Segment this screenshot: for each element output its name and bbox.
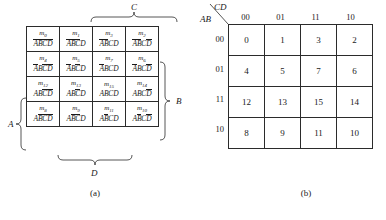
brace-label-d: D: [91, 168, 98, 178]
kmap-literal-row: m4ABCDm5ABCDm7ABCDm6ABCD: [27, 52, 159, 77]
kmap-numeric-cell[interactable]: 11: [301, 118, 337, 149]
kmap-numeric-row: 891110: [229, 118, 373, 149]
kmap-numeric-cell[interactable]: 3: [301, 25, 337, 56]
minterm-label: m2: [126, 30, 158, 38]
kmap-numeric-cell[interactable]: 8: [229, 118, 265, 149]
kmap-numeric-cell[interactable]: 6: [337, 56, 373, 87]
kmap-literal-cell[interactable]: m5ABCD: [60, 52, 93, 77]
kmap-numeric-cell[interactable]: 10: [337, 118, 373, 149]
kmap-literal-row: m12ABCDm13ABCDm15ABCDm14ABCD: [27, 77, 159, 102]
kmap-literal-row: m0ABCDm1ABCDm3ABCDm2ABCD: [27, 27, 159, 52]
kmap-numeric-cell[interactable]: 9: [265, 118, 301, 149]
brace-label-b: B: [176, 96, 182, 106]
kmap-numeric-cell[interactable]: 1: [265, 25, 301, 56]
kmap-literal-cell[interactable]: m2ABCD: [126, 27, 159, 52]
kmap-literal-cell[interactable]: m7ABCD: [93, 52, 126, 77]
kmap-numeric-row-header-0: 00: [204, 24, 224, 54]
brace-d-icon: [58, 155, 132, 165]
literal-expression: ABCD: [27, 39, 59, 48]
brace-b-icon: [160, 62, 170, 140]
literal-expression: ABCD: [93, 114, 125, 123]
karnaugh-map-figure: m0ABCDm1ABCDm3ABCDm2ABCDm4ABCDm5ABCDm7AB…: [0, 0, 386, 220]
kmap-numeric-cell[interactable]: 4: [229, 56, 265, 87]
minterm-label: m11: [93, 105, 125, 113]
minterm-label: m3: [93, 30, 125, 38]
kmap-literal-cell[interactable]: m13ABCD: [60, 77, 93, 102]
kmap-literal-row: m8ABCDm9ABCDm11ABCDm10ABCD: [27, 102, 159, 127]
literal-expression: ABCD: [93, 64, 125, 73]
kmap-numeric: 0132457612131514891110: [228, 24, 373, 149]
kmap-numeric-cell[interactable]: 14: [337, 87, 373, 118]
kmap-numeric-cell[interactable]: 15: [301, 87, 337, 118]
kmap-numeric-cell[interactable]: 12: [229, 87, 265, 118]
literal-expression: ABCD: [126, 89, 158, 98]
kmap-literal-cell[interactable]: m9ABCD: [60, 102, 93, 127]
minterm-label: m14: [126, 80, 158, 88]
kmap-numeric-body: 0132457612131514891110: [229, 25, 373, 149]
minterm-label: m0: [27, 30, 59, 38]
literal-expression: ABCD: [126, 114, 158, 123]
literal-expression: ABCD: [126, 64, 158, 73]
minterm-label: m10: [126, 105, 158, 113]
literal-expression: ABCD: [27, 114, 59, 123]
brace-c-icon: [91, 12, 177, 22]
kmap-literal-cell[interactable]: m11ABCD: [93, 102, 126, 127]
kmap-literal-cell[interactable]: m0ABCD: [27, 27, 60, 52]
caption-b: (b): [286, 188, 326, 198]
kmap-numeric-cell[interactable]: 13: [265, 87, 301, 118]
kmap-numeric-row: 4576: [229, 56, 373, 87]
kmap-numeric-row-header-3: 10: [204, 114, 224, 144]
kmap-numeric-ab-label: AB: [200, 14, 211, 24]
minterm-label: m4: [27, 55, 59, 63]
kmap-literal-table: m0ABCDm1ABCDm3ABCDm2ABCDm4ABCDm5ABCDm7AB…: [26, 26, 159, 127]
literal-expression: ABCD: [93, 90, 125, 98]
kmap-numeric-row: 12131514: [229, 87, 373, 118]
literal-expression: ABCD: [93, 39, 125, 48]
minterm-label: m13: [60, 80, 92, 88]
minterm-label: m12: [27, 80, 59, 88]
caption-a: (a): [75, 188, 115, 198]
kmap-numeric-row: 0132: [229, 25, 373, 56]
literal-expression: ABCD: [27, 89, 59, 98]
kmap-literal-cell[interactable]: m6ABCD: [126, 52, 159, 77]
kmap-numeric-cell[interactable]: 0: [229, 25, 265, 56]
kmap-literal-cell[interactable]: m15ABCD: [93, 77, 126, 102]
brace-label-c: C: [131, 2, 137, 12]
minterm-label: m6: [126, 55, 158, 63]
minterm-label: m7: [93, 55, 125, 63]
kmap-numeric-row-header-2: 11: [204, 84, 224, 114]
kmap-numeric-cell[interactable]: 5: [265, 56, 301, 87]
literal-expression: ABCD: [60, 114, 92, 123]
kmap-numeric-table: 0132457612131514891110: [228, 24, 373, 149]
kmap-numeric-col-header-3: 10: [333, 12, 368, 22]
kmap-literal-cell[interactable]: m14ABCD: [126, 77, 159, 102]
literal-expression: ABCD: [27, 64, 59, 73]
literal-expression: ABCD: [60, 89, 92, 98]
literal-expression: ABCD: [60, 64, 92, 73]
kmap-literal-cell[interactable]: m1ABCD: [60, 27, 93, 52]
kmap-literal-cell[interactable]: m10ABCD: [126, 102, 159, 127]
kmap-literal-cell[interactable]: m3ABCD: [93, 27, 126, 52]
kmap-literal-body: m0ABCDm1ABCDm3ABCDm2ABCDm4ABCDm5ABCDm7AB…: [27, 27, 159, 127]
kmap-literal-cell[interactable]: m8ABCD: [27, 102, 60, 127]
literal-expression: ABCD: [126, 39, 158, 48]
kmap-numeric-cell[interactable]: 7: [301, 56, 337, 87]
kmap-literal: m0ABCDm1ABCDm3ABCDm2ABCDm4ABCDm5ABCDm7AB…: [26, 26, 159, 127]
kmap-literal-cell[interactable]: m12ABCD: [27, 77, 60, 102]
kmap-numeric-col-header-0: 00: [228, 12, 263, 22]
kmap-numeric-cd-label: CD: [214, 2, 227, 12]
kmap-numeric-col-header-2: 11: [298, 12, 333, 22]
minterm-label: m8: [27, 105, 59, 113]
kmap-numeric-row-header-1: 01: [204, 54, 224, 84]
kmap-numeric-col-header-1: 01: [263, 12, 298, 22]
minterm-label: m15: [93, 81, 125, 89]
minterm-label: m5: [60, 55, 92, 63]
kmap-literal-cell[interactable]: m4ABCD: [27, 52, 60, 77]
brace-label-a: A: [8, 119, 14, 129]
literal-expression: ABCD: [60, 39, 92, 48]
minterm-label: m1: [60, 30, 92, 38]
brace-a-icon: [16, 98, 26, 150]
minterm-label: m9: [60, 105, 92, 113]
kmap-numeric-cell[interactable]: 2: [337, 25, 373, 56]
